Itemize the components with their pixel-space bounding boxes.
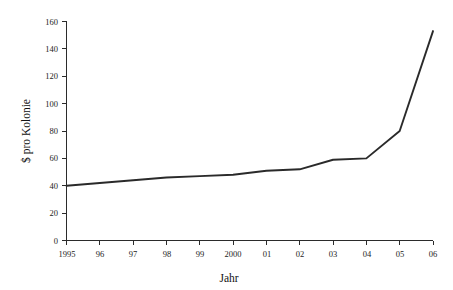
y-tick-label: 140 [45,44,58,54]
y-axis-title: $ pro Kolonie [20,99,33,163]
y-tick-label: 80 [50,126,59,136]
y-tick-label: 120 [45,71,58,81]
x-tick-label: 99 [196,249,205,259]
x-tick-label: 02 [296,249,305,259]
x-tick-label: 05 [396,249,405,259]
y-tick-label: 160 [45,17,58,27]
x-axis-title: Jahr [219,272,238,284]
line-chart: 160 140 120 100 80 60 40 20 0 [0,0,453,290]
y-tick-label: 40 [50,181,59,191]
x-tick-label: 96 [96,249,105,259]
y-tick-label: 20 [50,208,59,218]
y-tick-label: 60 [50,153,59,163]
x-tick-label: 1995 [59,249,76,259]
x-tick-label: 03 [329,249,338,259]
x-tick-label: 97 [129,249,138,259]
y-tick-label: 100 [45,99,58,109]
x-tick-label: 04 [363,249,372,259]
chart-background [0,0,453,290]
y-tick-label: 0 [54,236,58,246]
x-tick-label: 06 [429,249,438,259]
chart-container: 160 140 120 100 80 60 40 20 0 [0,0,453,290]
x-tick-label: 01 [263,249,272,259]
x-tick-label: 98 [163,249,172,259]
x-tick-label: 2000 [225,249,242,259]
